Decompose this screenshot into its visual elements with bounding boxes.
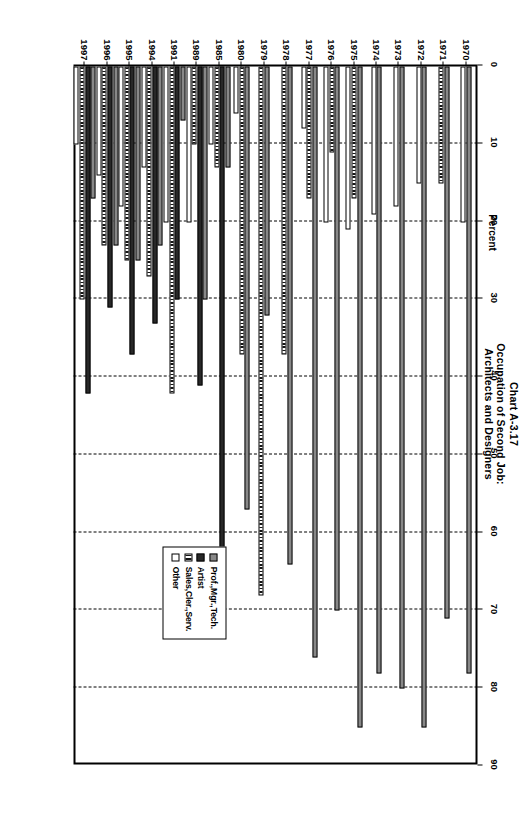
y-axis-label-1979: 1979 xyxy=(258,39,269,60)
y-axis-label-1972: 1972 xyxy=(415,39,426,60)
legend-label-3: Other xyxy=(170,566,180,588)
y-axis-label-1978: 1978 xyxy=(281,39,292,60)
x-tick-10 xyxy=(477,142,482,143)
bar-1995-other xyxy=(118,66,123,206)
bar-group-1997: 1997 xyxy=(73,66,95,762)
y-tick-1975 xyxy=(353,61,354,66)
bar-1997-sales-cler-serv- xyxy=(79,66,84,299)
bar-group-1985: 1985 xyxy=(208,66,230,762)
bar-1976-sales-cler-serv- xyxy=(329,66,334,152)
x-tick-label-70: 70 xyxy=(488,603,499,614)
bar-1997-artist xyxy=(85,66,90,393)
x-tick-label-60: 60 xyxy=(488,525,499,536)
bar-1989-other xyxy=(186,66,191,222)
x-tick-label-80: 80 xyxy=(488,681,499,692)
bar-1997-prof-mgr-tech- xyxy=(90,66,95,198)
bar-1996-other xyxy=(96,66,101,175)
x-tick-40 xyxy=(477,375,482,376)
bar-1971-sales-cler-serv- xyxy=(438,66,443,183)
bar-group-1973: 1973 xyxy=(387,66,409,762)
bar-1976-prof-mgr-tech- xyxy=(334,66,339,610)
y-tick-1980 xyxy=(240,61,241,66)
y-tick-1995 xyxy=(128,61,129,66)
legend-item-1: Artist xyxy=(195,553,205,631)
bar-1994-other xyxy=(141,66,146,167)
bar-1972-prof-mgr-tech- xyxy=(421,66,426,727)
y-axis-label-1991: 1991 xyxy=(169,39,180,60)
bar-1989-artist xyxy=(197,66,202,385)
bar-1985-prof-mgr-tech- xyxy=(225,66,230,167)
bar-1980-other xyxy=(233,66,238,113)
bar-1991-other xyxy=(163,66,168,222)
x-tick-label-10: 10 xyxy=(488,136,499,147)
bar-group-1974: 1974 xyxy=(365,66,387,762)
legend-item-3: Other xyxy=(170,553,180,631)
x-tick-label-40: 40 xyxy=(488,370,499,381)
bar-1985-artist xyxy=(219,66,224,572)
bar-1995-prof-mgr-tech- xyxy=(135,66,140,260)
bar-1995-artist xyxy=(129,66,134,354)
bar-1994-artist xyxy=(152,66,157,323)
y-tick-1979 xyxy=(263,61,264,66)
y-tick-1978 xyxy=(285,61,286,66)
x-tick-80 xyxy=(477,686,482,687)
bar-group-1989: 1989 xyxy=(185,66,207,762)
bar-1978-sales-cler-serv- xyxy=(281,66,286,354)
y-axis-label-1973: 1973 xyxy=(393,39,404,60)
bar-1978-prof-mgr-tech- xyxy=(287,66,292,564)
y-axis-label-1977: 1977 xyxy=(303,39,314,60)
y-tick-1989 xyxy=(195,61,196,66)
y-axis-label-1970: 1970 xyxy=(460,39,471,60)
bar-1996-sales-cler-serv- xyxy=(101,66,106,245)
bar-1996-prof-mgr-tech- xyxy=(113,66,118,245)
y-tick-1974 xyxy=(375,61,376,66)
x-tick-label-20: 20 xyxy=(488,214,499,225)
y-axis-label-1989: 1989 xyxy=(191,39,202,60)
bar-1994-sales-cler-serv- xyxy=(146,66,151,276)
legend-label-2: Sales,Cler.,Serv. xyxy=(183,566,193,631)
bar-1980-prof-mgr-tech- xyxy=(244,66,249,509)
y-axis-label-1985: 1985 xyxy=(213,39,224,60)
bar-1974-other xyxy=(371,66,376,214)
bar-1973-prof-mgr-tech- xyxy=(399,66,404,688)
bar-1977-other xyxy=(301,66,306,128)
y-axis-label-1975: 1975 xyxy=(348,39,359,60)
legend-swatch-solid-dark xyxy=(196,553,204,561)
bar-1970-other xyxy=(460,66,465,222)
bar-group-1980: 1980 xyxy=(230,66,252,762)
x-tick-label-90: 90 xyxy=(488,759,499,770)
y-tick-1976 xyxy=(330,61,331,66)
y-axis-label-1971: 1971 xyxy=(438,39,449,60)
legend-label-1: Artist xyxy=(195,566,205,588)
bar-group-1971: 1971 xyxy=(432,66,454,762)
bar-group-1978: 1978 xyxy=(275,66,297,762)
bar-group-1991: 1991 xyxy=(163,66,185,762)
x-tick-50 xyxy=(477,453,482,454)
bar-group-1979: 1979 xyxy=(253,66,275,762)
bar-1989-sales-cler-serv- xyxy=(191,66,196,144)
chart-title-line1: Chart A-3.17 xyxy=(507,0,520,827)
bar-1974-prof-mgr-tech- xyxy=(376,66,381,673)
bar-1991-prof-mgr-tech- xyxy=(180,66,185,120)
x-tick-60 xyxy=(477,531,482,532)
bar-1977-sales-cler-serv- xyxy=(306,66,311,198)
bar-1991-artist xyxy=(174,66,179,299)
legend-label-0: Prof.,Mgr.,Tech. xyxy=(208,566,218,628)
bar-1980-sales-cler-serv- xyxy=(239,66,244,354)
bar-1975-prof-mgr-tech- xyxy=(357,66,362,727)
y-axis-label-1996: 1996 xyxy=(101,39,112,60)
bar-1989-prof-mgr-tech- xyxy=(202,66,207,299)
bar-1975-sales-cler-serv- xyxy=(351,66,356,198)
x-tick-20 xyxy=(477,220,482,221)
y-axis-label-1997: 1997 xyxy=(79,39,90,60)
bar-1985-sales-cler-serv- xyxy=(214,66,219,167)
legend-swatch-white xyxy=(171,553,179,561)
bar-1979-prof-mgr-tech- xyxy=(264,66,269,315)
bar-group-1996: 1996 xyxy=(95,66,117,762)
x-tick-label-0: 0 xyxy=(488,61,499,66)
plot-area: 0102030405060708090 19701971197219731974… xyxy=(73,64,477,764)
bar-1994-prof-mgr-tech- xyxy=(157,66,162,245)
bar-1985-other xyxy=(208,66,213,144)
chart-figure: Chart A-3.17 Occupation of Second Job: A… xyxy=(0,0,529,827)
y-tick-1970 xyxy=(465,61,466,66)
